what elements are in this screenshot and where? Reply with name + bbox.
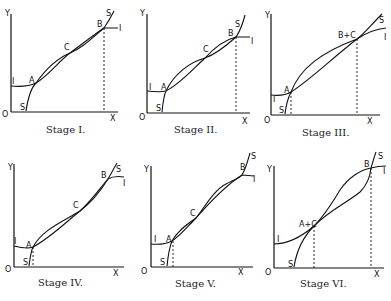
origin-label: O <box>141 267 147 276</box>
point-b-label: B <box>97 20 103 29</box>
origin-label: O <box>264 116 270 125</box>
point-c-label: C <box>73 201 79 210</box>
point-c-label: C <box>190 209 196 218</box>
stage-1-caption: Stage I. <box>46 124 85 135</box>
stage-5-diagram: Y O X I I S S A C B Stage V. <box>130 150 260 301</box>
i-label-start: I <box>154 235 156 244</box>
point-b-label: B <box>228 29 234 38</box>
i-label-start: I <box>12 77 14 86</box>
x-axis-label: X <box>110 114 116 123</box>
point-c-label: C <box>203 45 209 54</box>
point-a-label: A <box>284 86 290 95</box>
stage-4-caption: Stage IV. <box>38 277 83 288</box>
stage-6-caption: Stage VI. <box>300 278 347 289</box>
i-curve <box>14 176 124 248</box>
i-label-start: I <box>14 237 16 246</box>
y-axis-label: Y <box>266 165 272 174</box>
stage-6-diagram: Y O X I I S S A+C B Stage VI. <box>260 150 391 301</box>
x-axis-label: X <box>238 268 244 277</box>
stage-5-caption: Stage V. <box>175 278 216 289</box>
origin-label: O <box>2 110 8 119</box>
point-c-label: C <box>64 43 70 52</box>
s-label-end: S <box>116 165 121 174</box>
point-a-label: A <box>29 76 35 85</box>
stage-3-caption: Stage III. <box>302 127 349 138</box>
s-curve <box>285 14 382 114</box>
point-bc-label: B+C <box>338 31 356 40</box>
origin-label: O <box>139 113 145 122</box>
i-label-start: I <box>277 235 279 244</box>
i-label-start: I <box>149 83 151 92</box>
s-label-end: S <box>106 9 111 18</box>
s-curve <box>167 153 250 266</box>
y-axis-label: Y <box>7 163 13 172</box>
stage-3-diagram: Y O X I I S S A B+C Stage III. <box>260 0 391 150</box>
i-curve <box>11 28 118 86</box>
x-axis-label: X <box>374 270 380 279</box>
x-axis-label: X <box>242 117 248 126</box>
x-axis-label: X <box>367 117 373 126</box>
y-axis-label: Y <box>264 11 270 20</box>
i-label-end: I <box>119 24 121 33</box>
s-label-end: S <box>379 16 384 25</box>
stage-2-diagram: Y O X I I S S A C B Stage II. <box>130 0 260 150</box>
y-axis-label: Y <box>139 9 145 18</box>
point-a-label: A <box>166 235 172 244</box>
s-label-start: S <box>288 260 293 269</box>
point-a-label: A <box>161 83 167 92</box>
s-label-end: S <box>378 152 383 161</box>
i-label-end: I <box>251 37 253 46</box>
i-label-end: I <box>384 33 386 42</box>
s-label-end: S <box>235 20 240 29</box>
s-label-start: S <box>279 106 284 115</box>
y-axis-label: Y <box>4 9 10 18</box>
point-b-label: B <box>101 171 107 180</box>
s-curve <box>294 152 376 267</box>
point-b-label: B <box>240 163 246 172</box>
s-label-end: S <box>251 152 256 161</box>
s-label-start: S <box>156 104 161 113</box>
i-label-start: I <box>273 95 275 104</box>
point-ac-label: A+C <box>299 220 317 229</box>
x-axis-label: X <box>113 269 119 278</box>
s-label-start: S <box>160 258 165 267</box>
origin-label: O <box>5 265 11 274</box>
i-label-end: I <box>383 167 385 176</box>
origin-label: O <box>265 268 271 277</box>
stage-1-diagram: Y O X I I S S A C B Stage I. <box>0 0 130 150</box>
s-label-start: S <box>20 103 25 112</box>
y-axis-label: Y <box>143 165 149 174</box>
stage-2-caption: Stage II. <box>174 124 217 135</box>
s-label-start: S <box>23 258 28 267</box>
point-b-label: B <box>364 160 370 169</box>
stage-4-diagram: Y O X I I S S A C B Stage IV. <box>0 150 130 301</box>
i-label-end: I <box>123 179 125 188</box>
i-label-end: I <box>253 175 255 184</box>
point-a-label: A <box>26 241 32 250</box>
